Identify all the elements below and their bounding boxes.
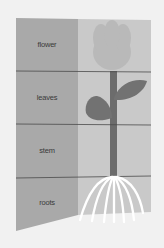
label-leaves: leaves bbox=[16, 93, 78, 102]
flower-head-icon bbox=[93, 20, 131, 70]
label-roots: roots bbox=[16, 198, 78, 207]
label-flower: flower bbox=[16, 40, 78, 49]
plant-diagram-graphic bbox=[0, 0, 164, 248]
label-stem: stem bbox=[16, 146, 78, 155]
plant-parts-card: flower leaves stem roots bbox=[0, 0, 164, 248]
